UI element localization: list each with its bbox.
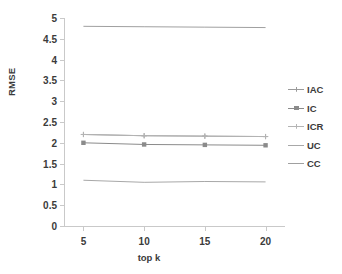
x-tick [144, 226, 145, 231]
legend-item-cc[interactable]: CC [288, 158, 323, 169]
chart-legend: IACICICRUCCC [288, 84, 323, 169]
legend-item-iac[interactable]: IAC [288, 84, 323, 95]
series-line [83, 26, 265, 27]
y-tick-label: 3.5 [43, 75, 57, 86]
legend-swatch-icon [288, 103, 304, 114]
data-point [81, 141, 85, 145]
data-point [263, 134, 268, 139]
data-point [142, 133, 147, 138]
legend-item-uc[interactable]: UC [288, 140, 323, 151]
y-tick-label: 0 [51, 221, 57, 232]
legend-item-icr[interactable]: ICR [288, 121, 323, 132]
data-point [263, 143, 267, 147]
series-line [83, 143, 265, 145]
series-line [83, 180, 265, 182]
y-axis-label: RMSE [6, 68, 17, 96]
y-tick-label: 4 [51, 54, 57, 65]
y-tick-label: 5 [51, 13, 57, 24]
y-tick-label: 2 [51, 137, 57, 148]
legend-line [288, 145, 304, 146]
series-line [83, 134, 265, 136]
y-tick [60, 226, 64, 227]
rmse-line-chart: RMSE 00.511.522.533.544.55 5101520 top k… [0, 0, 342, 274]
x-axis-label: top k [0, 252, 342, 263]
legend-swatch-icon [288, 140, 304, 151]
y-tick-label: 3 [51, 96, 57, 107]
y-tick-label: 1.5 [43, 158, 57, 169]
legend-plus-marker-icon [294, 124, 299, 129]
series-ic [81, 141, 268, 148]
x-tick [205, 226, 206, 231]
legend-item-ic[interactable]: IC [288, 103, 323, 114]
legend-line [288, 163, 304, 164]
x-axis-line [64, 226, 285, 227]
series-uc [83, 180, 265, 182]
legend-plus-marker-icon [294, 87, 299, 92]
series-icr [81, 132, 268, 139]
legend-label: CC [307, 158, 321, 169]
legend-label: IC [307, 103, 317, 114]
legend-label: UC [307, 140, 321, 151]
plot-area: 00.511.522.533.544.55 5101520 [64, 18, 285, 226]
y-tick-label: 4.5 [43, 33, 57, 44]
legend-label: IAC [307, 84, 323, 95]
x-tick-label: 5 [81, 236, 87, 247]
series-cc [83, 26, 265, 27]
legend-swatch-icon [288, 121, 304, 132]
y-tick-label: 2.5 [43, 117, 57, 128]
x-tick-label: 10 [139, 236, 150, 247]
x-tick-label: 20 [260, 236, 271, 247]
x-tick [266, 226, 267, 231]
data-point [142, 142, 146, 146]
data-point [81, 132, 86, 137]
legend-swatch-icon [288, 84, 304, 95]
legend-swatch-icon [288, 158, 304, 169]
data-point [202, 134, 207, 139]
x-tick [83, 226, 84, 231]
y-tick-label: 0.5 [43, 200, 57, 211]
legend-square-marker-icon [294, 106, 299, 111]
series-lines [64, 18, 285, 226]
x-tick-label: 15 [199, 236, 210, 247]
data-point [203, 143, 207, 147]
legend-label: ICR [307, 121, 323, 132]
y-tick-label: 1 [51, 179, 57, 190]
